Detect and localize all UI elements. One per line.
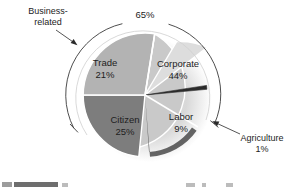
business-related-arrow-head: [71, 39, 78, 45]
caption-tick-3: [202, 183, 206, 187]
pie-label-corporate-name: Corporate: [157, 58, 199, 69]
pie-label-labor-value: 9%: [174, 123, 188, 134]
pie-label-trade-name: Trade: [93, 57, 117, 68]
agriculture-label-line2: 1%: [255, 144, 268, 154]
caption-tick-1: [62, 183, 68, 187]
pie-label-trade: Trade 21%: [93, 57, 117, 80]
cropped-caption-strip: [0, 179, 288, 188]
pie-label-corporate-value: 44%: [168, 70, 188, 81]
business-related-label-line2: related: [34, 17, 62, 27]
pie-label-trade-value: 21%: [95, 69, 115, 80]
business-related-percent-label: 65%: [135, 9, 155, 20]
caption-swatch: [2, 182, 12, 187]
pie-chart-svg: 65% Business- related Agriculture 1% Cor…: [0, 0, 288, 188]
pie-label-citizen-value: 25%: [115, 126, 135, 137]
business-related-arc-tick-left: [70, 124, 78, 132]
agriculture-label-line1: Agriculture: [240, 133, 283, 143]
caption-tick-4: [226, 183, 233, 187]
pie-label-labor-name: Labor: [169, 111, 193, 122]
pie-chart-figure: 65% Business- related Agriculture 1% Cor…: [0, 0, 288, 188]
pie-label-citizen-name: Citizen: [110, 114, 139, 125]
pie-slice-citizen: [83, 95, 145, 157]
caption-bar: [14, 182, 58, 187]
caption-tick-2: [186, 183, 195, 187]
business-related-label-line1: Business-: [28, 6, 68, 16]
